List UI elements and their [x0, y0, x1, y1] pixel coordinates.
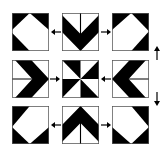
tile-r3c2 [62, 106, 99, 144]
tile-r1c1 [12, 13, 49, 51]
arrow-left-icon [51, 121, 61, 129]
chevron-up-pattern-icon [62, 106, 99, 144]
tile-r2c1 [12, 60, 49, 98]
pentagon-pattern-icon [12, 13, 49, 51]
tile-r2c3 [112, 60, 149, 98]
arrow-down-icon [153, 92, 161, 106]
tile-r1c3 [112, 13, 149, 51]
tile-r2c2 [62, 60, 99, 98]
arrow-right-icon [50, 75, 60, 83]
arrow-right-icon [101, 121, 111, 129]
pentagon-pattern-icon [112, 106, 149, 144]
tile-r1c2 [62, 13, 99, 51]
pinwheel-pattern-icon [62, 60, 99, 98]
arrow-up-icon [153, 46, 161, 60]
pentagon-pattern-icon [112, 13, 149, 51]
chevron-left-pattern-icon [112, 60, 149, 98]
tile-r3c1 [12, 106, 49, 144]
chevron-right-pattern-icon [12, 60, 49, 98]
arrow-left-icon [51, 28, 61, 36]
arrow-left-icon [101, 75, 111, 83]
arrow-right-icon [101, 28, 111, 36]
tile-r3c3 [112, 106, 149, 144]
chevron-down-pattern-icon [62, 13, 99, 51]
pentagon-pattern-icon [12, 106, 49, 144]
